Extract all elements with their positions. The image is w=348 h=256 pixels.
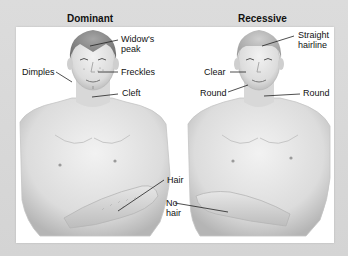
- label-hair: Hair: [167, 175, 184, 185]
- recessive-title: Recessive: [238, 13, 287, 24]
- label-dimples: Dimples: [22, 67, 55, 77]
- label-round-cheek: Round: [200, 88, 227, 98]
- label-freckles: Freckles: [121, 67, 155, 77]
- label-no-hair: No hair: [166, 198, 181, 218]
- recessive-figure: [188, 30, 330, 236]
- dominant-figure: [20, 30, 170, 236]
- dominant-title: Dominant: [67, 13, 113, 24]
- label-widows-peak: Widow's peak: [121, 34, 154, 54]
- label-clear: Clear: [204, 67, 226, 77]
- label-round-chin: Round: [303, 88, 330, 98]
- label-straight-hairline: Straight hairline: [298, 30, 329, 50]
- label-cleft: Cleft: [122, 88, 141, 98]
